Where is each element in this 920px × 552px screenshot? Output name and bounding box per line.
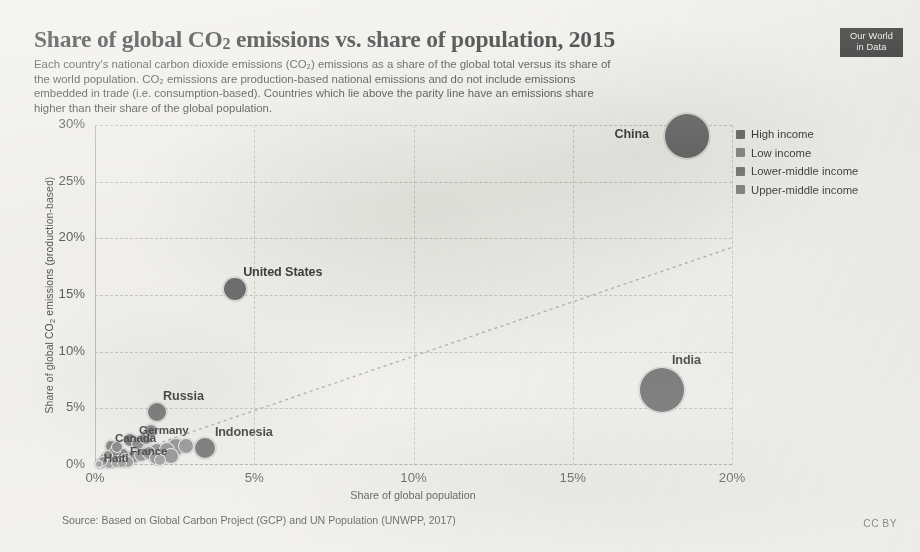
bubble-indonesia[interactable]: [194, 437, 216, 459]
legend-item-lower-middle-income[interactable]: Lower-middle income: [736, 165, 911, 177]
legend-label: High income: [751, 128, 814, 140]
x-tick-label: 15%: [560, 470, 586, 485]
gridline-x-10%: [414, 125, 415, 465]
bubble-label-france: France: [130, 443, 167, 456]
legend-swatch-icon: [736, 130, 745, 139]
logo-line-2: in Data: [840, 42, 903, 53]
y-tick-label: 5%: [0, 399, 85, 414]
y-tick-label: 30%: [0, 116, 85, 131]
y-tick-label: 20%: [0, 229, 85, 244]
x-axis-label: Share of global population: [350, 489, 475, 501]
source-note: Source: Based on Global Carbon Project (…: [62, 514, 456, 526]
x-tick-label: 10%: [400, 470, 426, 485]
bubble-label-canada: Canada: [115, 430, 156, 443]
x-axis-baseline: [95, 464, 732, 465]
bubble-label-haiti: Haiti: [104, 450, 129, 463]
bubble-russia[interactable]: [147, 402, 167, 422]
y-tick-label: 10%: [0, 343, 85, 358]
legend-item-high-income[interactable]: High income: [736, 128, 911, 140]
bubble-label-russia: Russia: [163, 389, 204, 403]
bubble-label-india: India: [672, 353, 701, 367]
y-tick-label: 25%: [0, 173, 85, 188]
legend-swatch-icon: [736, 148, 745, 157]
y-axis-label: Share of global CO2 emissions (productio…: [44, 177, 55, 414]
legend-label: Upper-middle income: [751, 184, 858, 196]
x-tick-label: 20%: [719, 470, 745, 485]
y-tick-label: 0%: [0, 456, 85, 471]
x-tick-label: 0%: [85, 470, 104, 485]
bubble-label-china: China: [614, 127, 648, 141]
scatter-plot: ChinaIndiaUnited StatesRussiaIndonesiaGe…: [0, 0, 920, 552]
legend-item-upper-middle-income[interactable]: Upper-middle income: [736, 184, 911, 196]
license-label: CC BY: [863, 518, 897, 529]
gridline-x-20%: [732, 125, 733, 465]
gridline-x-5%: [254, 125, 255, 465]
bubble-label-united-states: United States: [243, 265, 322, 279]
legend-swatch-icon: [736, 185, 745, 194]
legend-item-low-income[interactable]: Low income: [736, 147, 911, 159]
bubble-india[interactable]: [639, 367, 685, 413]
y-tick-label: 15%: [0, 286, 85, 301]
x-tick-label: 5%: [245, 470, 264, 485]
logo-line-1: Our World: [840, 31, 903, 42]
bubble-united-states[interactable]: [223, 277, 247, 301]
plot-area: ChinaIndiaUnited StatesRussiaIndonesiaGe…: [95, 125, 732, 465]
our-world-in-data-logo[interactable]: Our World in Data: [840, 28, 903, 57]
legend-swatch-icon: [736, 167, 745, 176]
legend-label: Low income: [751, 147, 811, 159]
legend-label: Lower-middle income: [751, 165, 858, 177]
bubble-label-indonesia: Indonesia: [215, 425, 273, 439]
legend: High incomeLow incomeLower-middle income…: [736, 128, 911, 202]
gridline-x-15%: [573, 125, 574, 465]
bubble-p12[interactable]: [178, 438, 194, 454]
bubble-p20[interactable]: [95, 460, 103, 468]
bubble-china[interactable]: [664, 113, 710, 159]
bubble-p28[interactable]: [154, 454, 166, 466]
